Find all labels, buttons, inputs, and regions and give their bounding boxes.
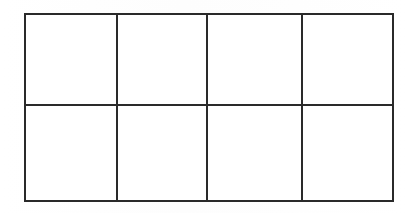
table-cell[interactable] <box>118 15 208 104</box>
table-row <box>26 106 392 200</box>
table-cell-text <box>208 15 301 104</box>
table-cell-text <box>118 15 206 104</box>
empty-grid-table <box>24 13 394 202</box>
table-cell-text <box>303 106 392 200</box>
table-cell[interactable] <box>208 15 303 104</box>
table-cell[interactable] <box>303 15 392 104</box>
table-cell-text <box>208 106 301 200</box>
table-cell-text <box>303 15 392 104</box>
table-cell[interactable] <box>208 106 303 200</box>
table-cell[interactable] <box>303 106 392 200</box>
page-canvas <box>0 0 409 213</box>
table-cell-text <box>26 106 116 200</box>
table-row <box>26 15 392 106</box>
table-cell-text <box>118 106 206 200</box>
table-cell[interactable] <box>118 106 208 200</box>
table-cell-text <box>26 15 116 104</box>
table-cell[interactable] <box>26 15 118 104</box>
table-cell[interactable] <box>26 106 118 200</box>
